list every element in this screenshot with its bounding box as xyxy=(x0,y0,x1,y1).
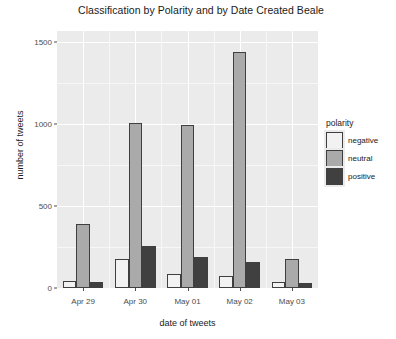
bar-negative-may-02 xyxy=(219,276,233,288)
bar-neutral-apr-30 xyxy=(129,123,143,288)
y-tick-mark-0 xyxy=(54,288,57,289)
legend-label-neutral: neutral xyxy=(348,154,372,163)
bar-negative-apr-29 xyxy=(63,281,77,288)
chart-title: Classification by Polarity and by Date C… xyxy=(0,4,396,16)
legend-title: polarity xyxy=(326,118,378,128)
legend-item-positive[interactable]: positive xyxy=(326,168,378,185)
y-tick-label-1000: 1000 xyxy=(8,120,52,129)
bar-positive-may-03 xyxy=(299,283,313,288)
bar-neutral-may-02 xyxy=(233,52,247,288)
x-axis-title: date of tweets xyxy=(57,318,318,328)
y-tick-mark-1500 xyxy=(54,42,57,43)
gridline-x-minor-1 xyxy=(109,31,110,288)
legend-swatch-neutral xyxy=(326,150,343,167)
x-tick-label-may-01: May 01 xyxy=(158,297,218,306)
x-tick-label-apr-30: Apr 30 xyxy=(105,297,165,306)
legend-label-negative: negative xyxy=(348,136,378,145)
x-tick-mark-0 xyxy=(83,288,84,291)
y-tick-label-500: 500 xyxy=(8,202,52,211)
x-tick-label-may-03: May 03 xyxy=(262,297,322,306)
bar-positive-may-01 xyxy=(194,257,208,288)
legend-swatch-positive xyxy=(326,168,343,185)
gridline-x-4 xyxy=(292,31,293,288)
x-tick-mark-1 xyxy=(135,288,136,291)
bar-positive-apr-30 xyxy=(142,246,156,288)
legend-items: negativeneutralpositive xyxy=(326,132,378,185)
bar-positive-apr-29 xyxy=(90,282,104,288)
bar-neutral-may-03 xyxy=(285,259,299,288)
legend-swatch-negative xyxy=(326,132,343,149)
y-tick-label-0: 0 xyxy=(8,284,52,293)
legend-item-negative[interactable]: negative xyxy=(326,132,378,149)
bar-negative-may-03 xyxy=(272,282,286,288)
bar-neutral-apr-29 xyxy=(76,224,90,288)
gridline-x-minor-3 xyxy=(214,31,215,288)
legend-label-positive: positive xyxy=(348,172,375,181)
plot-panel xyxy=(57,31,318,288)
gridline-x-minor-2 xyxy=(161,31,162,288)
x-tick-mark-4 xyxy=(292,288,293,291)
y-tick-mark-500 xyxy=(54,206,57,207)
gridline-x-minor-4 xyxy=(266,31,267,288)
y-axis-title: number of tweets xyxy=(15,85,25,205)
x-tick-label-apr-29: Apr 29 xyxy=(53,297,113,306)
bar-negative-apr-30 xyxy=(115,259,129,288)
y-tick-mark-1000 xyxy=(54,124,57,125)
legend-item-neutral[interactable]: neutral xyxy=(326,150,378,167)
bar-neutral-may-01 xyxy=(181,125,195,288)
x-tick-mark-3 xyxy=(240,288,241,291)
bar-negative-may-01 xyxy=(167,274,181,288)
x-tick-mark-2 xyxy=(188,288,189,291)
y-tick-label-1500: 1500 xyxy=(8,38,52,47)
legend: polarity negativeneutralpositive xyxy=(326,118,378,186)
x-tick-label-may-02: May 02 xyxy=(210,297,270,306)
bar-positive-may-02 xyxy=(246,262,260,288)
